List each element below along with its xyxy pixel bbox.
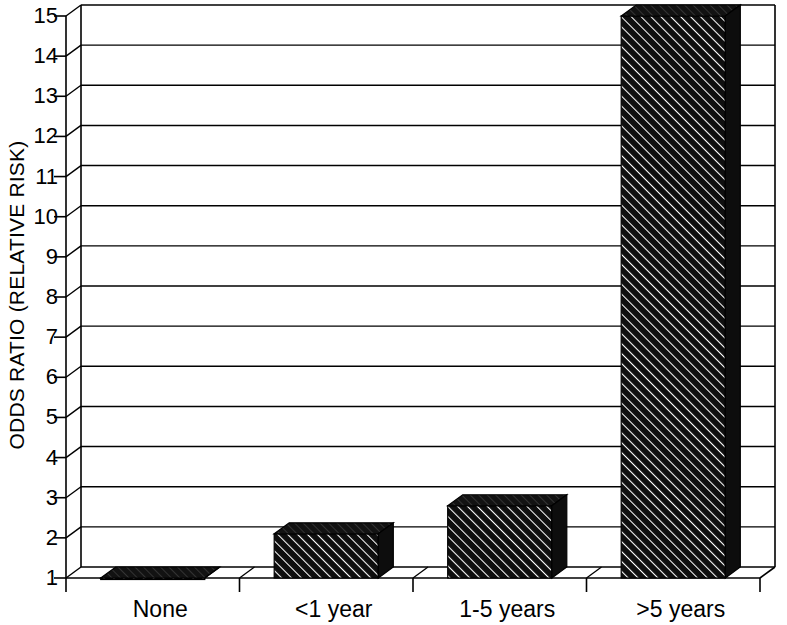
bar [101,567,220,580]
bar-chart: ODDS RATIO (RELATIVE RISK) 1234567891011… [0,0,787,625]
bar [448,495,567,578]
bar [621,5,740,578]
bar [274,523,393,578]
bars-group [101,5,741,580]
plot-area [0,0,787,625]
